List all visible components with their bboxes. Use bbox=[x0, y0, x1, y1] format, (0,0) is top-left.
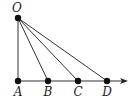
point-O bbox=[15, 15, 21, 21]
point-C bbox=[75, 78, 81, 84]
label-O: O bbox=[12, 2, 22, 14]
segment-OC bbox=[18, 18, 78, 81]
label-A: A bbox=[14, 86, 23, 98]
segment-OD bbox=[18, 18, 107, 81]
label-D: D bbox=[102, 86, 112, 98]
point-B bbox=[45, 78, 51, 84]
label-C: C bbox=[73, 86, 82, 98]
geometry-diagram: O A B C D bbox=[0, 0, 134, 110]
segment-OB bbox=[18, 18, 48, 81]
point-A bbox=[15, 78, 21, 84]
label-B: B bbox=[44, 86, 53, 98]
point-D bbox=[104, 78, 110, 84]
